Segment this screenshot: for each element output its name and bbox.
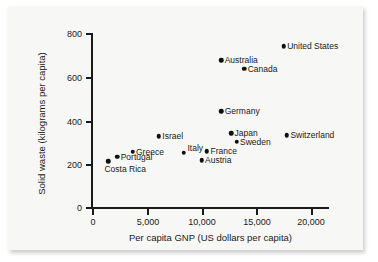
x-tick-20000: [311, 209, 313, 215]
y-axis-title: Solid waste (kilograms per capita): [36, 44, 47, 204]
data-point-label: Austria: [205, 156, 231, 165]
data-point-label: Italy: [187, 143, 203, 152]
y-tick-800: [86, 33, 92, 35]
x-tick-label-10000: 10,000: [179, 218, 225, 227]
data-point: [242, 67, 247, 72]
data-point: [229, 131, 234, 136]
data-point: [281, 44, 286, 49]
data-point: [234, 140, 239, 145]
data-point-label: Germany: [225, 107, 260, 116]
data-point: [115, 155, 120, 160]
data-point-label: Switzerland: [290, 131, 334, 140]
x-tick-label-20000: 20,000: [288, 218, 334, 227]
x-tick-10000: [202, 209, 204, 215]
x-tick-label-15000: 15,000: [234, 218, 280, 227]
x-axis-title: Per capita GNP (US dollars per capita): [68, 232, 353, 243]
x-tick-0: [92, 209, 94, 215]
x-tick-label-0: 0: [70, 218, 116, 227]
y-tick-400: [86, 121, 92, 123]
y-tick-label-0: 0: [52, 204, 82, 213]
data-point-label: United States: [287, 42, 338, 51]
data-point: [219, 109, 224, 114]
y-tick-label-200: 200: [52, 161, 82, 170]
x-tick-5000: [147, 209, 149, 215]
data-point: [219, 58, 224, 63]
data-point: [157, 134, 162, 139]
x-axis-line: [92, 207, 329, 209]
data-point: [182, 150, 187, 155]
figure-card: 800 600 400 200 0 0 5,000 10,000 15,000 …: [8, 6, 363, 250]
data-point-label: Canada: [248, 65, 278, 74]
x-tick-label-5000: 5,000: [125, 218, 171, 227]
y-tick-label-800: 800: [52, 30, 82, 39]
y-tick-label-600: 600: [52, 74, 82, 83]
data-point: [106, 159, 111, 164]
data-point-label: Greece: [136, 147, 164, 156]
data-point-label: Sweden: [240, 138, 271, 147]
y-tick-600: [86, 77, 92, 79]
data-point: [285, 133, 290, 138]
data-point: [130, 149, 135, 154]
data-point-label: Israel: [162, 132, 183, 141]
data-point: [205, 149, 210, 154]
y-tick-label-400: 400: [52, 118, 82, 127]
y-tick-200: [86, 164, 92, 166]
data-point-label: Costa Rica: [104, 165, 146, 174]
x-tick-15000: [256, 209, 258, 215]
data-point: [199, 158, 204, 163]
